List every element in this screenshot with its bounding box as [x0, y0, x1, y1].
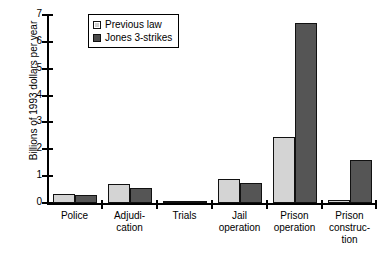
y-axis-tick [42, 14, 53, 16]
bar-group [157, 201, 212, 203]
y-axis-tick [42, 148, 53, 150]
bar-previous-law [218, 179, 240, 203]
bar-group [212, 179, 267, 203]
bar-jones-3-strikes [185, 201, 207, 203]
bar-jones-3-strikes [75, 195, 97, 203]
x-axis-category-label: Trials [157, 210, 212, 222]
y-axis-tick-label: 5 [22, 63, 42, 73]
category-label-line: Prison [322, 210, 377, 222]
bar-jones-3-strikes [130, 188, 152, 203]
chart-legend: Previous law Jones 3-strikes [88, 14, 179, 48]
y-axis-tick [42, 175, 53, 177]
legend-label-previous-law: Previous law [105, 19, 162, 30]
legend-item-previous-law: Previous law [93, 18, 172, 31]
category-label-line: operation [267, 222, 322, 234]
category-label-line: cation [102, 222, 157, 234]
x-axis-category-label: Prisonoperation [267, 210, 322, 234]
y-axis-tick [42, 121, 53, 123]
x-axis-category-label: Prisonconstruc-tion [322, 210, 377, 246]
category-label-line: operation [212, 222, 267, 234]
category-label-line: Trials [157, 210, 212, 222]
legend-swatch-previous-law [93, 21, 101, 29]
y-axis-tick-labels: 01234567 [20, 15, 42, 205]
bar-previous-law [328, 200, 350, 203]
y-axis-tick-label: 2 [22, 143, 42, 153]
y-axis-tick-label: 6 [22, 36, 42, 46]
category-label-line: tion [322, 234, 377, 246]
category-label-line: Prison [267, 210, 322, 222]
x-axis-category-label: Adjudi-cation [102, 210, 157, 234]
y-axis-tick-label: 4 [22, 90, 42, 100]
category-label-line: Adjudi- [102, 210, 157, 222]
bar-previous-law [273, 137, 295, 203]
y-axis-tick [42, 95, 53, 97]
y-axis-tick [42, 41, 53, 43]
y-axis-tick-label: 7 [22, 9, 42, 19]
bar-previous-law [53, 194, 75, 203]
bar-group [47, 194, 102, 203]
bar-group [102, 184, 157, 203]
bar-previous-law [163, 201, 185, 203]
bar-chart: Billions of 1993 dollars per year 012345… [0, 0, 389, 269]
x-axis-category-labels: PoliceAdjudi-cationTrialsJailoperationPr… [47, 210, 377, 268]
x-axis-category-label: Police [47, 210, 102, 222]
legend-item-jones-3-strikes: Jones 3-strikes [93, 31, 172, 44]
y-axis-tick-label: 3 [22, 116, 42, 126]
category-label-line: construc- [322, 222, 377, 234]
legend-swatch-jones-3-strikes [93, 34, 101, 42]
bar-jones-3-strikes [350, 160, 372, 204]
y-axis-tick-label: 0 [22, 197, 42, 207]
bar-previous-law [108, 184, 130, 203]
legend-label-jones-3-strikes: Jones 3-strikes [105, 32, 172, 43]
category-label-line: Jail [212, 210, 267, 222]
bar-group [322, 160, 377, 204]
bar-jones-3-strikes [295, 23, 317, 203]
y-axis-tick [42, 68, 53, 70]
category-label-line: Police [47, 210, 102, 222]
x-axis-category-label: Jailoperation [212, 210, 267, 234]
bar-jones-3-strikes [240, 183, 262, 203]
bar-group [267, 23, 322, 203]
y-axis-tick-label: 1 [22, 170, 42, 180]
